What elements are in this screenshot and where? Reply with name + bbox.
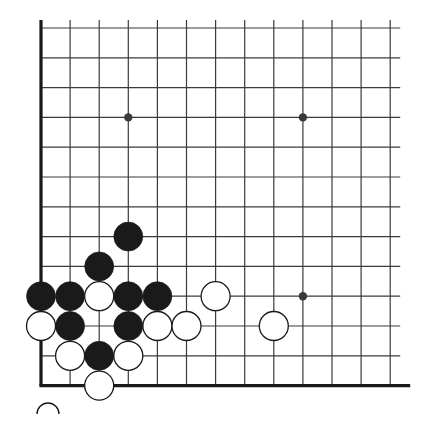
star-point — [299, 113, 307, 121]
white-stone[interactable] — [85, 282, 114, 311]
white-stone[interactable] — [27, 312, 56, 341]
white-stone[interactable] — [143, 312, 172, 341]
black-stone[interactable] — [143, 282, 172, 311]
black-stone[interactable] — [56, 282, 85, 311]
white-stone[interactable] — [259, 312, 288, 341]
white-stone[interactable] — [56, 341, 85, 370]
black-stone[interactable] — [114, 222, 143, 251]
white-stone[interactable] — [85, 371, 114, 400]
black-stone[interactable] — [56, 312, 85, 341]
black-stone[interactable] — [85, 341, 114, 370]
black-stone[interactable] — [27, 282, 56, 311]
white-stone[interactable] — [172, 312, 201, 341]
white-stone[interactable] — [201, 282, 230, 311]
star-point — [299, 292, 307, 300]
go-board-canvas[interactable] — [0, 0, 434, 424]
go-board-figure — [0, 0, 434, 424]
black-stone[interactable] — [114, 282, 143, 311]
black-stone[interactable] — [114, 312, 143, 341]
black-stone[interactable] — [85, 252, 114, 281]
white-stone[interactable] — [114, 341, 143, 370]
star-point — [124, 113, 132, 121]
